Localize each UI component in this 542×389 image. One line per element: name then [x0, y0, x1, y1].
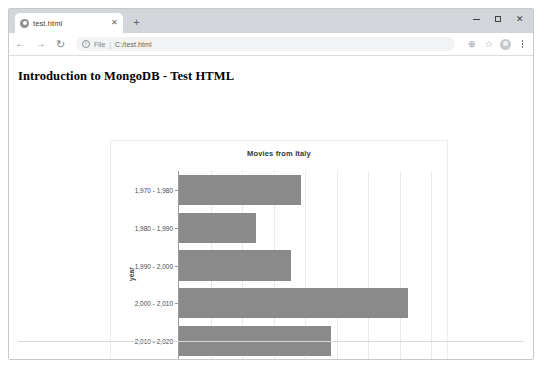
minimize-button[interactable]	[465, 10, 487, 28]
chart-title: Movies from Italy	[111, 149, 447, 158]
plot-axes: 1,970 - 1,9801,980 - 1,9901,990 - 2,0002…	[178, 171, 431, 359]
profile-avatar[interactable]	[500, 39, 511, 50]
url-separator: |	[109, 41, 111, 48]
gridline	[431, 171, 432, 359]
bar	[179, 175, 301, 205]
url-path-label: C:/test.html	[115, 41, 152, 48]
bar	[179, 213, 256, 243]
y-axis-tick-label: 1,970 - 1,980	[135, 186, 173, 193]
y-axis-tick	[175, 266, 179, 267]
close-window-button[interactable]: ✕	[509, 10, 531, 28]
favicon-icon	[20, 19, 29, 28]
site-info-icon[interactable]	[82, 40, 90, 48]
y-axis-tick-label: 1,980 - 1,990	[135, 224, 173, 231]
page-content: Introduction to MongoDB - Test HTML Movi…	[9, 56, 533, 359]
maximize-button[interactable]	[487, 10, 509, 28]
back-button[interactable]: ←	[14, 38, 27, 51]
plot-area: year 1,970 - 1,9801,980 - 1,9901,990 - 2…	[111, 163, 447, 359]
browser-toolbar: ← → ↻ File | C:/test.html ⊕ ☆	[9, 33, 533, 56]
y-axis-tick	[175, 190, 179, 191]
close-tab-icon[interactable]: ✕	[111, 19, 118, 27]
browser-tab[interactable]: test.html ✕	[15, 13, 123, 33]
url-scheme-label: File	[94, 41, 105, 48]
plot-canvas: 1,970 - 1,9801,980 - 1,9901,990 - 2,0002…	[178, 171, 431, 359]
browser-window: test.html ✕ + ✕ ← → ↻ File | C:/test.htm…	[8, 8, 534, 360]
reload-button[interactable]: ↻	[54, 38, 67, 51]
chart-card: Movies from Italy year 1,970 - 1,9801,98…	[110, 140, 448, 359]
bar-series	[179, 171, 431, 359]
tab-strip: test.html ✕ + ✕	[9, 9, 533, 33]
window-controls: ✕	[465, 10, 531, 28]
kebab-menu-icon[interactable]	[517, 39, 528, 50]
zoom-icon[interactable]: ⊕	[466, 39, 477, 50]
y-axis-tick-label: 1,990 - 2,000	[135, 262, 173, 269]
bar	[179, 250, 291, 280]
page-title: Introduction to MongoDB - Test HTML	[18, 69, 533, 84]
forward-button[interactable]: →	[34, 38, 47, 51]
close-icon: ✕	[516, 15, 524, 23]
y-axis-tick-label: 2,000 - 2,010	[135, 300, 173, 307]
bookmark-star-icon[interactable]: ☆	[483, 39, 494, 50]
toolbar-actions: ⊕ ☆	[462, 39, 528, 50]
y-axis-tick	[175, 228, 179, 229]
address-bar[interactable]: File | C:/test.html	[76, 37, 455, 51]
y-axis-label: year	[128, 266, 135, 280]
new-tab-button[interactable]: +	[130, 16, 143, 29]
screenshot-root: test.html ✕ + ✕ ← → ↻ File | C:/test.htm…	[0, 0, 542, 389]
y-axis-tick	[175, 303, 179, 304]
bar	[179, 288, 408, 318]
tab-title: test.html	[33, 19, 107, 28]
horizontal-rule	[18, 341, 524, 342]
